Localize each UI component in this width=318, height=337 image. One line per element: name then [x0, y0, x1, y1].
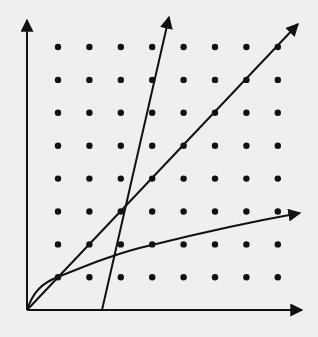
grid-dot [243, 143, 249, 149]
grid-dot [86, 44, 92, 50]
grid-dot [149, 44, 155, 50]
grid-dot [86, 143, 92, 149]
steep-line-arrow [102, 17, 169, 310]
grid-dot [180, 241, 186, 247]
grid-dot [180, 110, 186, 116]
logarithmic-curve-arrow [27, 213, 300, 310]
grid-dot [86, 208, 92, 214]
grid-dot [180, 274, 186, 280]
grid-dot [212, 241, 218, 247]
grid-dot [118, 274, 124, 280]
grid-dot [212, 44, 218, 50]
grid-dot [275, 175, 281, 181]
grid-dot [55, 241, 61, 247]
grid-dot [180, 44, 186, 50]
grid-dot [180, 208, 186, 214]
grid-dot [149, 143, 155, 149]
grid-dot [55, 77, 61, 83]
linear-diagonal-arrow [27, 24, 298, 310]
grid-dot [55, 208, 61, 214]
grid-dot [180, 77, 186, 83]
grid-dot [86, 77, 92, 83]
grid-dot [243, 175, 249, 181]
grid-dot [55, 44, 61, 50]
grid-dot [118, 143, 124, 149]
grid-dot [55, 175, 61, 181]
grid-dot [55, 110, 61, 116]
growth-diagram [0, 0, 318, 337]
grid-dot [86, 175, 92, 181]
grid-dot [275, 77, 281, 83]
grid-dot [275, 110, 281, 116]
grid-dot [275, 274, 281, 280]
grid-dot [243, 274, 249, 280]
grid-dot [212, 143, 218, 149]
grid-dot [212, 175, 218, 181]
grid-dot [212, 77, 218, 83]
grid-dot [149, 208, 155, 214]
grid-dot [275, 241, 281, 247]
grid-dot [118, 110, 124, 116]
grid-dot [243, 110, 249, 116]
grid-dot [212, 208, 218, 214]
grid-dot [118, 241, 124, 247]
grid-dot [212, 274, 218, 280]
grid-dot [243, 241, 249, 247]
grid-dot [243, 208, 249, 214]
grid-dot [55, 143, 61, 149]
curves [27, 17, 300, 310]
grid-dot [118, 77, 124, 83]
grid-dot [275, 208, 281, 214]
grid-dot [118, 44, 124, 50]
grid-dot [86, 110, 92, 116]
grid-dot [86, 274, 92, 280]
grid-dot [149, 274, 155, 280]
grid-dot [149, 110, 155, 116]
grid-dot [118, 175, 124, 181]
grid-dot [243, 44, 249, 50]
grid-dot [275, 143, 281, 149]
grid-dot [180, 175, 186, 181]
